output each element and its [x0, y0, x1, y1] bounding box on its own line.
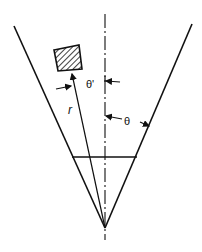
theta-label: θ	[124, 115, 130, 127]
theta-arrow-right	[140, 122, 149, 126]
hatched-object	[54, 45, 82, 71]
theta-arrow-left	[106, 116, 122, 119]
theta-prime-arrow-right	[106, 81, 120, 82]
radius-label: r	[68, 103, 73, 117]
theta-prime-arrow-left	[56, 86, 71, 89]
cone-diagram: θ' θ r	[0, 0, 202, 252]
theta-prime-label: θ'	[86, 78, 94, 90]
radius-line	[72, 74, 105, 228]
